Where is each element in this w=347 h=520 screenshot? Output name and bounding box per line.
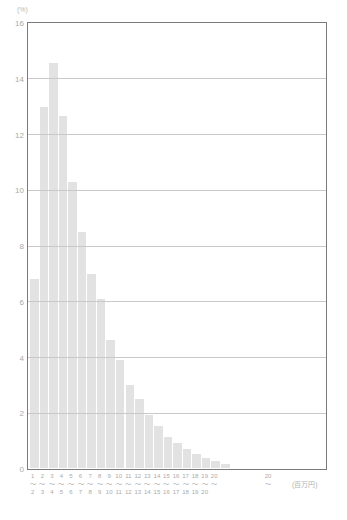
y-axis-tick-label: 16 — [15, 19, 24, 28]
bar — [191, 454, 201, 468]
y-axis-tick-label: 14 — [15, 74, 24, 83]
bar — [125, 385, 135, 468]
y-axis-tick-label: 6 — [20, 297, 24, 306]
gridline — [28, 246, 326, 247]
bar — [210, 461, 220, 468]
bar — [182, 449, 192, 468]
x-tick-lower-bound: 20 — [204, 472, 224, 481]
gridline — [28, 357, 326, 358]
x-axis-tail-label: 20～ — [258, 472, 278, 488]
x-tail-range-separator: ～ — [258, 481, 278, 488]
bar — [115, 360, 125, 468]
gridline — [28, 301, 326, 302]
bar — [39, 107, 49, 468]
bar — [105, 340, 115, 468]
x-tick-upper-bound: 20 — [195, 488, 215, 497]
y-axis-tick-label: 12 — [15, 130, 24, 139]
bar — [96, 299, 106, 468]
bar — [29, 279, 39, 468]
y-axis-tick-label: 2 — [20, 409, 24, 418]
x-tail-lower-bound: 20 — [258, 472, 278, 481]
bar — [86, 274, 96, 468]
x-axis-tick-label: 20～ — [204, 472, 224, 488]
y-axis-tick-label: 4 — [20, 353, 24, 362]
bar — [172, 443, 182, 468]
plot-area: 0246810121416 — [27, 22, 327, 470]
bar — [48, 63, 58, 468]
x-tick-range-separator: ～ — [204, 481, 224, 488]
gridline — [28, 190, 326, 191]
y-axis-unit-label: (%) — [17, 6, 28, 13]
x-axis-unit-label: (百万円) — [292, 479, 318, 489]
bar — [77, 232, 87, 468]
gridline — [28, 413, 326, 414]
bar — [134, 399, 144, 468]
bar — [67, 182, 77, 468]
bar — [144, 415, 154, 468]
bar — [58, 116, 68, 468]
gridline — [28, 78, 326, 79]
y-axis-tick-label: 10 — [15, 186, 24, 195]
gridline — [28, 134, 326, 135]
bar — [153, 426, 163, 468]
x-axis-tick-labels: 1～22～33～44～55～66～77～88～99～1010～1111～1212… — [28, 472, 326, 506]
bar — [201, 458, 211, 468]
bar — [163, 437, 173, 468]
y-axis-tick-label: 8 — [20, 242, 24, 251]
histogram-chart: (%) 0246810121416 1～22～33～44～55～66～77～88… — [0, 0, 347, 520]
bar — [220, 464, 230, 468]
